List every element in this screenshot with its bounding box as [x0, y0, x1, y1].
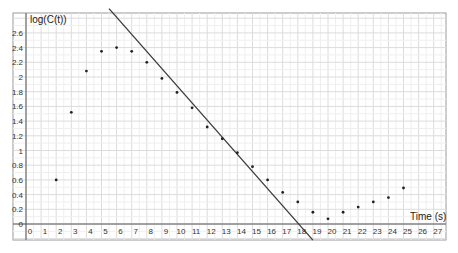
data-point — [206, 126, 209, 129]
x-tick-label: 4 — [88, 227, 93, 236]
data-point — [236, 151, 239, 154]
x-tick-label: 17 — [282, 227, 291, 236]
data-point — [161, 77, 164, 80]
data-point — [191, 106, 194, 109]
y-tick-label: 2.4 — [12, 44, 24, 53]
data-point — [251, 165, 254, 168]
x-tick-label: 7 — [133, 227, 138, 236]
data-point — [281, 191, 284, 194]
x-tick-label: 21 — [343, 227, 352, 236]
x-tick-label: 2 — [58, 227, 63, 236]
x-tick-label: 10 — [177, 227, 186, 236]
x-tick-label: 20 — [328, 227, 337, 236]
x-tick-label: 15 — [252, 227, 261, 236]
y-tick-label: 2 — [19, 73, 24, 82]
x-axis-label: Time (s) — [410, 211, 446, 222]
data-point — [357, 206, 360, 209]
data-point — [266, 179, 269, 182]
y-tick-label: 0.4 — [12, 191, 24, 200]
x-tick-label: 22 — [358, 227, 367, 236]
data-point — [70, 111, 73, 114]
x-tick-label: 1 — [43, 227, 48, 236]
y-tick-label: 0.8 — [12, 161, 24, 170]
y-tick-label: 0 — [19, 220, 24, 229]
y-tick-label: 1 — [19, 147, 24, 156]
x-tick-label: 14 — [237, 227, 246, 236]
data-point — [372, 201, 375, 204]
x-tick-label: 8 — [149, 227, 154, 236]
x-tick-label: 16 — [267, 227, 276, 236]
x-tick-label: 13 — [222, 227, 231, 236]
data-point — [402, 187, 405, 190]
y-tick-label: 1.2 — [12, 132, 24, 141]
x-tick-label: 24 — [388, 227, 397, 236]
y-tick-label: 0.2 — [12, 205, 24, 214]
data-point — [145, 61, 148, 64]
data-point — [387, 196, 390, 199]
x-tick-label: 12 — [207, 227, 216, 236]
data-point — [130, 50, 133, 53]
data-point — [176, 91, 179, 94]
x-tick-label: 27 — [433, 227, 442, 236]
x-tick-label: 23 — [373, 227, 382, 236]
y-axis-label: log(C(t)) — [30, 14, 67, 25]
y-tick-label: 1.8 — [12, 88, 24, 97]
data-point — [100, 50, 103, 53]
x-tick-label: 5 — [103, 227, 108, 236]
data-point — [55, 179, 58, 182]
chart: 0123456789101112131415161718192021222324… — [0, 0, 458, 253]
data-point — [85, 70, 88, 73]
x-tick-label: 25 — [403, 227, 412, 236]
x-tick-label: 6 — [118, 227, 123, 236]
y-tick-label: 2.6 — [12, 29, 24, 38]
x-tick-label: 9 — [164, 227, 169, 236]
y-tick-label: 2.2 — [12, 58, 24, 67]
y-tick-label: 1.4 — [12, 117, 24, 126]
x-tick-label: 0 — [28, 227, 33, 236]
x-tick-label: 26 — [418, 227, 427, 236]
data-point — [296, 201, 299, 204]
data-point — [312, 211, 315, 214]
data-point — [327, 217, 330, 220]
x-tick-label: 3 — [73, 227, 78, 236]
y-tick-label: 1.6 — [12, 102, 24, 111]
y-tick-label: 0.6 — [12, 176, 24, 185]
data-point — [115, 46, 118, 49]
x-tick-label: 11 — [192, 227, 201, 236]
data-point — [342, 211, 345, 214]
x-tick-label: 19 — [312, 227, 321, 236]
data-point — [221, 137, 224, 140]
